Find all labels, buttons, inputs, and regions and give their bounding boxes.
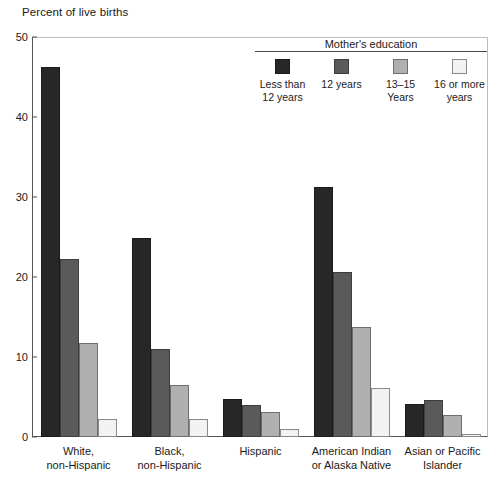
bar bbox=[462, 434, 481, 437]
legend-item[interactable]: 12 years bbox=[314, 59, 369, 91]
legend-item[interactable]: 13–15 Years bbox=[373, 59, 428, 104]
y-axis-tick-mark bbox=[32, 197, 37, 198]
bar bbox=[333, 272, 352, 437]
legend-title: Mother's education bbox=[255, 38, 487, 50]
legend-item[interactable]: 16 or more years bbox=[432, 59, 487, 104]
legend-item-label: 12 years bbox=[314, 78, 369, 91]
legend-item-label: Less than 12 years bbox=[255, 78, 310, 104]
legend-item-label: 16 or more years bbox=[432, 78, 487, 104]
x-axis-label: White,non-Hispanic bbox=[46, 444, 110, 472]
bar bbox=[189, 419, 208, 437]
swatch-less-than-12-years bbox=[275, 59, 290, 74]
y-axis-tick-label: 30 bbox=[16, 191, 28, 203]
y-axis-tick-mark bbox=[32, 357, 37, 358]
bar bbox=[352, 327, 371, 437]
x-axis-label-line: non-Hispanic bbox=[46, 458, 110, 472]
bar bbox=[280, 429, 299, 437]
x-axis-label-line: American Indian bbox=[312, 444, 392, 458]
swatch-13-15-years bbox=[393, 59, 408, 74]
x-axis-label-line: Black, bbox=[137, 444, 201, 458]
bar bbox=[41, 67, 60, 437]
bar bbox=[424, 400, 443, 437]
bar bbox=[98, 419, 117, 437]
x-axis-label: American Indianor Alaska Native bbox=[312, 444, 392, 472]
y-axis-tick-mark bbox=[32, 277, 37, 278]
x-axis-label-line: Asian or Pacific bbox=[405, 444, 481, 458]
y-axis-tick-mark bbox=[32, 117, 37, 118]
bar bbox=[60, 259, 79, 437]
bar-group bbox=[41, 37, 117, 437]
y-axis-tick-label: 40 bbox=[16, 111, 28, 123]
y-axis-tick-label: 0 bbox=[22, 431, 28, 443]
bar bbox=[170, 385, 189, 437]
y-axis-title: Percent of live births bbox=[22, 6, 128, 18]
legend: Mother's education Less than 12 years12 … bbox=[255, 38, 487, 104]
x-axis-label: Asian or PacificIslander bbox=[405, 444, 481, 472]
legend-item[interactable]: Less than 12 years bbox=[255, 59, 310, 104]
bar bbox=[223, 399, 242, 437]
legend-item-label: 13–15 Years bbox=[373, 78, 428, 104]
bar bbox=[371, 388, 390, 437]
y-axis-tick-label: 50 bbox=[16, 31, 28, 43]
bar bbox=[443, 415, 462, 437]
y-axis-tick-mark bbox=[32, 437, 37, 438]
x-axis-label-line: Hispanic bbox=[239, 444, 281, 458]
x-axis-label-line: non-Hispanic bbox=[137, 458, 201, 472]
legend-items: Less than 12 years12 years13–15 Years16 … bbox=[255, 59, 487, 104]
bar bbox=[132, 238, 151, 437]
y-axis-tick-labels: 01020304050 bbox=[0, 0, 28, 483]
x-axis-label: Black,non-Hispanic bbox=[137, 444, 201, 472]
bar bbox=[261, 412, 280, 437]
legend-divider bbox=[255, 51, 487, 52]
bar bbox=[79, 343, 98, 437]
x-axis-label: Hispanic bbox=[239, 444, 281, 458]
x-axis-label-line: or Alaska Native bbox=[312, 458, 392, 472]
x-axis-label-line: Islander bbox=[405, 458, 481, 472]
swatch-12-years bbox=[334, 59, 349, 74]
swatch-16-or-more-years bbox=[452, 59, 467, 74]
bar bbox=[151, 349, 170, 437]
bar-chart: Percent of live births 01020304050 White… bbox=[0, 0, 499, 483]
y-axis-tick-label: 20 bbox=[16, 271, 28, 283]
bar-group bbox=[132, 37, 208, 437]
bar bbox=[242, 405, 261, 437]
bar bbox=[314, 187, 333, 437]
y-axis-tick-mark bbox=[32, 37, 37, 38]
y-axis-tick-label: 10 bbox=[16, 351, 28, 363]
bar bbox=[405, 404, 424, 437]
x-axis-label-line: White, bbox=[46, 444, 110, 458]
